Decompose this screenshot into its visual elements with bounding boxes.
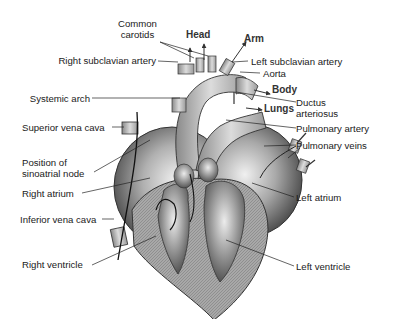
label-ductus-line1: Ductus: [296, 97, 338, 108]
label-left-subclavian-artery: Left subclavian artery: [251, 56, 342, 67]
label-flow-lungs: Lungs: [264, 103, 294, 114]
label-sinoatrial-node: Position of sinoatrial node: [22, 157, 84, 179]
label-ductus-arteriosus: Ductus arteriosus: [296, 97, 338, 119]
label-ductus-line2: arteriosus: [296, 108, 338, 119]
label-right-subclavian-artery: Right subclavian artery: [58, 55, 156, 66]
label-sinoatrial-node-line1: Position of: [22, 157, 84, 168]
label-pulmonary-veins: Pulmonary veins: [296, 140, 367, 151]
label-pulmonary-artery: Pulmonary artery: [296, 123, 369, 134]
label-inferior-vena-cava: Inferior vena cava: [20, 214, 96, 225]
label-common-carotids-line1: Common: [118, 18, 157, 29]
label-sinoatrial-node-line2: sinoatrial node: [22, 168, 84, 179]
label-right-ventricle: Right ventricle: [22, 259, 83, 270]
label-flow-arm: Arm: [244, 33, 264, 44]
superior-vena-cava: [122, 122, 138, 134]
label-right-atrium: Right atrium: [22, 188, 74, 199]
label-common-carotids-line2: carotids: [118, 29, 157, 40]
label-common-carotids: Common carotids: [118, 18, 157, 40]
inferior-vena-cava: [110, 227, 127, 248]
label-flow-body: Body: [272, 84, 297, 95]
label-left-atrium: Left atrium: [296, 192, 341, 203]
label-left-ventricle: Left ventricle: [296, 261, 350, 272]
label-aorta: Aorta: [263, 68, 286, 79]
aorta-to-body: [236, 77, 258, 100]
label-flow-head: Head: [186, 29, 210, 40]
ventricle-wall: [132, 178, 268, 319]
label-systemic-arch: Systemic arch: [30, 93, 90, 104]
label-superior-vena-cava: Superior vena cava: [22, 122, 105, 133]
